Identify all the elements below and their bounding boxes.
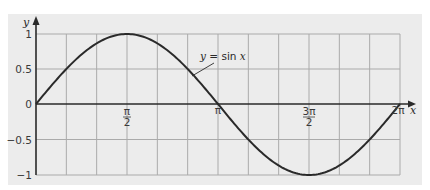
y-tick-label: 0 (25, 98, 32, 110)
annotation-x: x (240, 50, 246, 62)
y-tick-label: −0.5 (7, 134, 33, 146)
y-tick-label: −1 (17, 169, 32, 181)
x-tick-label-denominator: 2 (124, 116, 131, 128)
annotation-mid: = sin (206, 50, 240, 62)
x-tick-label: π (215, 104, 222, 116)
sine-chart: 10.50−0.5−1 π2π3π22π y x y = sin x (0, 0, 430, 190)
y-tick-label: 1 (25, 28, 32, 40)
y-tick-label: 0.5 (15, 63, 32, 75)
curve-annotation: y = sin x (199, 50, 246, 62)
x-axis-label: x (410, 104, 417, 117)
x-tick-label-denominator: 2 (306, 116, 313, 128)
y-axis-label: y (22, 16, 30, 29)
x-tick-label: 2π (391, 104, 405, 116)
